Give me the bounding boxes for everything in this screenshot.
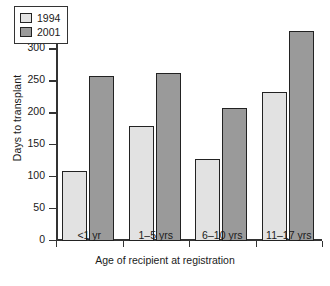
plot-area: 050100150200250300350 <box>56 18 322 241</box>
y-tick-label: 250 <box>11 73 45 85</box>
y-tick-label: 100 <box>11 169 45 181</box>
legend-item: 1994 <box>20 11 60 25</box>
legend-label-2001: 2001 <box>37 27 60 37</box>
bar-group <box>256 18 323 241</box>
legend-swatch-1994 <box>20 13 32 23</box>
bar-2001 <box>222 108 247 241</box>
x-tick <box>322 241 323 247</box>
bar-chart: Days to transplant 050100150200250300350… <box>0 0 330 286</box>
x-category-label: 11–17 yrs <box>254 229 324 241</box>
bar-group <box>123 18 190 241</box>
y-tick: 50 <box>49 208 56 209</box>
y-tick-label: 150 <box>11 137 45 149</box>
legend-swatch-2001 <box>20 27 32 37</box>
x-category-label: <1 yr <box>54 229 124 241</box>
y-tick-label: 200 <box>11 105 45 117</box>
x-tick <box>56 241 57 247</box>
bar-group <box>189 18 256 241</box>
x-tick <box>189 241 190 247</box>
bar-group <box>56 18 123 241</box>
y-tick: 200 <box>49 112 56 113</box>
y-tick: 150 <box>49 144 56 145</box>
y-tick: 250 <box>49 80 56 81</box>
legend-label-1994: 1994 <box>37 13 60 23</box>
bar-2001 <box>156 73 181 241</box>
x-tick <box>123 241 124 247</box>
y-tick-label: 50 <box>11 201 45 213</box>
bar-1994 <box>129 126 154 241</box>
bar-2001 <box>289 31 314 241</box>
y-tick: 300 <box>49 48 56 49</box>
y-tick: 100 <box>49 176 56 177</box>
legend: 1994 2001 <box>14 6 68 44</box>
x-axis-title: Age of recipient at registration <box>0 254 330 266</box>
y-tick-label: 0 <box>11 233 45 245</box>
x-tick <box>256 241 257 247</box>
x-category-label: 1–5 yrs <box>121 229 191 241</box>
legend-item: 2001 <box>20 25 60 39</box>
bar-2001 <box>89 76 114 241</box>
x-category-label: 6–10 yrs <box>187 229 257 241</box>
bar-1994 <box>262 92 287 241</box>
